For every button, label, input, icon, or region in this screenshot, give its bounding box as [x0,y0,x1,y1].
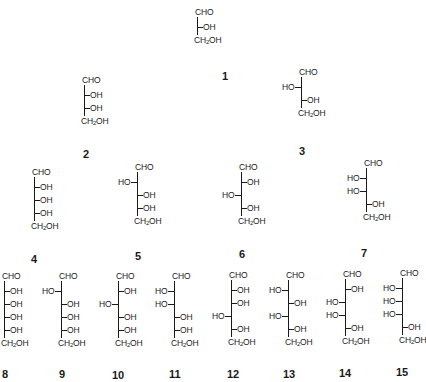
hydroxyl-right-label: OH [67,326,79,335]
hydroxymethyl-group-label: CH2OH [363,213,390,224]
compound-number-label: 2 [83,148,89,160]
oh-text: OH [96,116,108,126]
compound-number-label: 10 [112,369,124,381]
ch-text: CH [238,216,250,226]
aldehyde-group-label: CHO [286,271,304,280]
hydroxyl-left-label: HO [212,312,224,321]
carbon-backbone-line [197,17,198,35]
hydroxymethyl-group-label: CH2OH [298,109,325,120]
carbon-backbone-line [34,177,35,221]
ch-text: CH [31,221,43,231]
ch-text: CH [194,35,206,45]
oh-text: OH [378,212,390,222]
hydroxyl-right-label: OH [237,325,249,334]
hydroxyl-right-label: OH [124,326,136,335]
hydroxyl-left-label: HO [118,178,130,187]
hydroxymethyl-group-label: CH2OH [171,339,198,350]
hydroxymethyl-group-label: CH2OH [1,339,28,350]
hydroxyl-right-label: OH [372,200,384,209]
hydroxyl-left-label: HO [347,187,359,196]
ch-text: CH [228,337,240,347]
oh-text: OH [313,108,325,118]
aldehyde-group-label: CHO [116,272,134,281]
hydroxymethyl-group-label: CH2OH [115,339,142,350]
hydroxyl-left-label: HO [222,191,234,200]
hydroxyl-left-label: HO [42,287,54,296]
oh-text: OH [149,216,161,226]
compound-number-label: 15 [396,366,408,378]
substituent-bond [168,291,174,292]
ch-text: CH [81,116,93,126]
oh-text: OH [253,216,265,226]
compound-number-label: 4 [31,253,37,265]
aldehyde-group-label: CHO [239,163,257,172]
oh-text: OH [209,35,221,45]
aldehyde-group-label: CHO [2,272,20,281]
aldehyde-group-label: CHO [229,271,247,280]
hydroxyl-right-label: OH [40,196,52,205]
substituent-bond [282,316,288,317]
hydroxyl-right-label: OH [294,299,306,308]
hydroxymethyl-group-label: CH2OH [194,36,221,47]
hydroxyl-right-label: OH [203,23,215,32]
hydroxyl-right-label: OH [247,204,259,213]
hydroxyl-left-label: HO [326,298,338,307]
substituent-bond [339,302,345,303]
aldehyde-group-label: CHO [135,163,153,172]
hydroxyl-right-label: OH [351,324,363,333]
hydroxyl-right-label: OH [90,104,102,113]
hydroxyl-right-label: OH [247,178,259,187]
hydroxyl-right-label: OH [67,313,79,322]
hydroxyl-right-label: OH [307,96,319,105]
hydroxymethyl-group-label: CH2OH [58,339,85,350]
oh-text: OH [300,337,312,347]
hydroxymethyl-group-label: CH2OH [285,338,312,349]
compound-number-label: 8 [2,368,8,380]
compound-number-label: 12 [227,368,239,380]
ch-text: CH [171,338,183,348]
ch-text: CH [342,336,354,346]
substituent-bond [360,191,366,192]
hydroxyl-left-label: HO [383,310,395,319]
compound-number-label: 3 [299,145,305,157]
hydroxymethyl-group-label: CH2OH [399,336,426,347]
substituent-bond [225,316,231,317]
aldehyde-group-label: CHO [172,272,190,281]
aldehyde-group-label: CHO [343,270,361,279]
compound-number-label: 5 [135,250,141,262]
hydroxyl-right-label: OH [90,91,102,100]
aldehyde-group-label: CHO [195,8,213,17]
compound-number-label: 11 [169,368,181,380]
ch-text: CH [298,108,310,118]
oh-text: OH [243,337,255,347]
ch-text: CH [58,338,70,348]
hydroxyl-right-label: OH [143,204,155,213]
substituent-bond [168,304,174,305]
hydroxyl-right-label: OH [40,183,52,192]
hydroxyl-right-label: OH [408,323,420,332]
hydroxyl-right-label: OH [180,313,192,322]
hydroxyl-left-label: HO [269,286,281,295]
ch-text: CH [115,338,127,348]
carbon-backbone-line [366,168,367,212]
substituent-bond [339,315,345,316]
ch-text: CH [363,212,375,222]
hydroxymethyl-group-label: CH2OH [31,222,58,233]
substituent-bond [55,291,61,292]
hydroxyl-right-label: OH [294,325,306,334]
oh-text: OH [414,335,426,345]
aldehyde-group-label: CHO [82,76,100,85]
hydroxyl-right-label: OH [10,326,22,335]
oh-text: OH [73,338,85,348]
oh-text: OH [186,338,198,348]
hydroxyl-right-label: OH [10,287,22,296]
aldehyde-group-label: CHO [299,68,317,77]
hydroxyl-right-label: OH [351,285,363,294]
carbon-backbone-line [137,172,138,216]
hydroxymethyl-group-label: CH2OH [228,338,255,349]
substituent-bond [360,178,366,179]
hydroxyl-left-label: HO [347,174,359,183]
carbon-backbone-line [301,77,302,108]
hydroxyl-left-label: HO [269,312,281,321]
compound-number-label: 14 [339,367,351,379]
